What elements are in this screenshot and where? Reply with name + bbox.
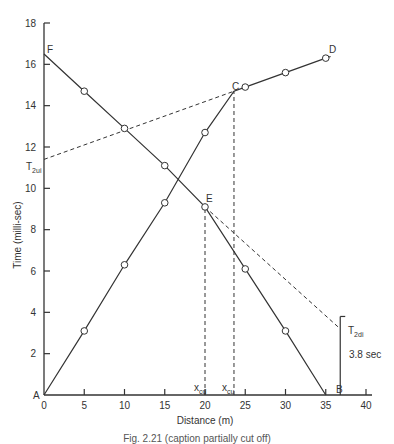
x-tick-label: 15 xyxy=(159,400,171,411)
y-tick-label: 18 xyxy=(25,18,37,29)
data-point-marker xyxy=(202,204,209,211)
label-point-a: A xyxy=(33,390,40,401)
data-point-marker xyxy=(242,266,249,273)
y-tick-label: 14 xyxy=(25,100,37,111)
x-ticks: 0510152025303540 xyxy=(41,389,372,411)
y-tick-label: 16 xyxy=(25,59,37,70)
y-ticks: 24681012141618 xyxy=(25,18,50,360)
label-point-f: F xyxy=(47,44,53,55)
x-tick-label: 35 xyxy=(320,400,332,411)
label-xcd: xcd xyxy=(194,382,207,395)
label-intercept-value: 3.8 sec xyxy=(349,349,381,360)
x-tick-label: 25 xyxy=(240,400,252,411)
label-t2ui: T2ui xyxy=(26,161,42,174)
x-tick-label: 0 xyxy=(41,400,47,411)
x-tick-label: 10 xyxy=(119,400,131,411)
figure-caption: Fig. 2.21 (caption partially cut off) xyxy=(0,433,394,444)
x-axis-title: Distance (m) xyxy=(177,415,234,426)
y-tick-label: 8 xyxy=(30,224,36,235)
y-tick-label: 6 xyxy=(30,266,36,277)
label-point-c: C xyxy=(232,81,239,92)
label-point-e: E xyxy=(206,193,213,204)
data-point-marker xyxy=(282,69,289,76)
data-point-marker xyxy=(202,129,209,136)
data-point-marker xyxy=(161,162,168,169)
series-extrapolation-c-to-t2ui xyxy=(44,91,234,159)
series-reverse-shot-f-e-b xyxy=(44,54,326,395)
marker-layer xyxy=(81,55,329,334)
data-point-marker xyxy=(121,125,128,132)
y-tick-label: 2 xyxy=(30,348,36,359)
x-tick-label: 5 xyxy=(81,400,87,411)
data-point-marker xyxy=(282,328,289,335)
data-point-marker xyxy=(121,262,128,269)
data-point-marker xyxy=(242,84,249,91)
data-point-marker xyxy=(322,55,329,62)
label-xcu: xcu xyxy=(222,382,235,395)
x-tick-label: 40 xyxy=(360,400,372,411)
data-point-marker xyxy=(161,200,168,207)
label-point-b: B xyxy=(336,384,343,395)
label-t2di: T2di xyxy=(348,325,364,338)
x-tick-label: 20 xyxy=(199,400,211,411)
series-layer xyxy=(44,54,340,395)
label-point-d: D xyxy=(329,44,336,55)
y-tick-label: 12 xyxy=(25,142,37,153)
y-tick-label: 4 xyxy=(30,307,36,318)
x-tick-label: 30 xyxy=(280,400,292,411)
y-tick-label: 10 xyxy=(25,183,37,194)
y-axis-title: Time (milli-sec) xyxy=(12,201,23,268)
data-point-marker xyxy=(81,88,88,95)
data-point-marker xyxy=(81,328,88,335)
